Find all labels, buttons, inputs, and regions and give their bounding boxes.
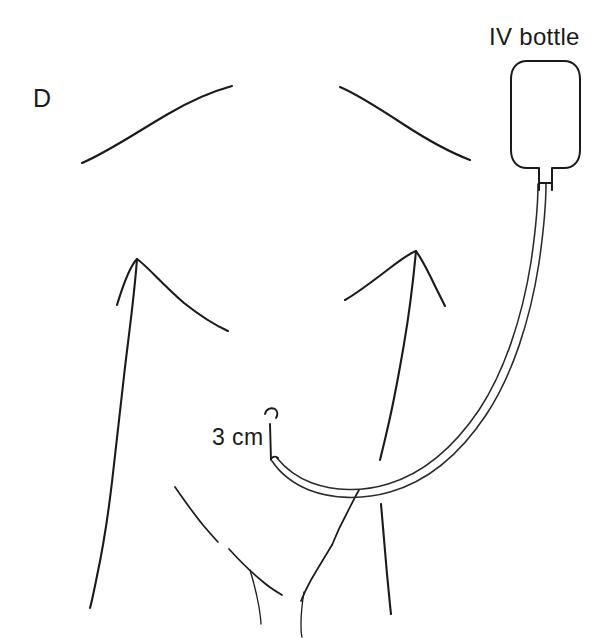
- line-art-drawing: [0, 0, 612, 638]
- clavicle-right: [340, 87, 470, 160]
- flank-right-upper: [380, 251, 416, 460]
- flank-right-lower: [381, 504, 391, 614]
- catheter-length-measure: [265, 408, 277, 460]
- inguinal-crease-right: [301, 490, 359, 637]
- iv-bottle: [511, 61, 580, 190]
- costal-margin-right: [345, 251, 445, 306]
- illustration-canvas: D IV bottle 3 cm: [0, 0, 612, 638]
- inguinal-crease-left: [229, 549, 282, 624]
- iv-bottle-label: IV bottle: [489, 23, 580, 51]
- oblique-crease-left: [175, 487, 218, 542]
- catheter-length-label: 3 cm: [212, 424, 263, 451]
- clavicle-left: [82, 86, 232, 163]
- flank-left: [90, 259, 137, 608]
- catheter-tubing: [271, 184, 546, 497]
- panel-label: D: [33, 84, 52, 113]
